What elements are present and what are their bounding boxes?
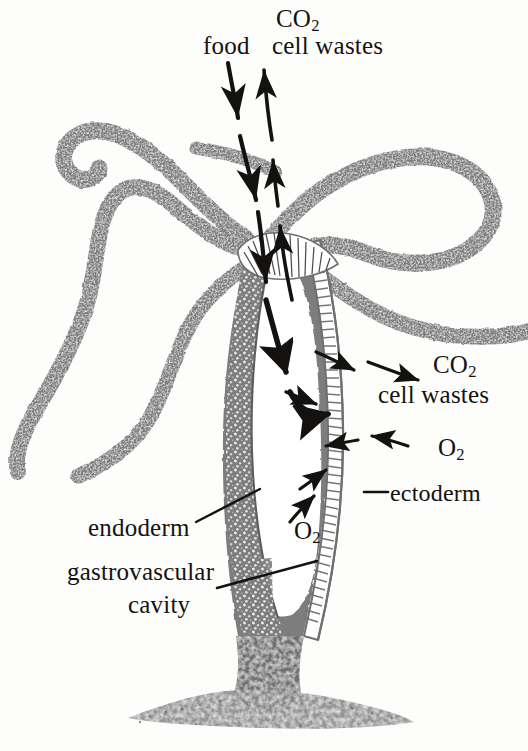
label-gastrovascular: gastrovascular (67, 559, 214, 585)
label-ectoderm: ectoderm (390, 481, 481, 506)
label-co2-right: CO2 (433, 352, 476, 380)
label-o2-right: O2 (438, 435, 465, 463)
label-endoderm: endoderm (88, 515, 190, 541)
label-co2-top: CO2 (276, 6, 319, 34)
label-cavity: cavity (128, 592, 190, 618)
label-cell-wastes-top: cell wastes (272, 33, 383, 59)
label-food: food (203, 33, 250, 59)
label-cell-wastes-right: cell wastes (378, 382, 489, 408)
label-o2-mid: O2 (294, 518, 321, 546)
